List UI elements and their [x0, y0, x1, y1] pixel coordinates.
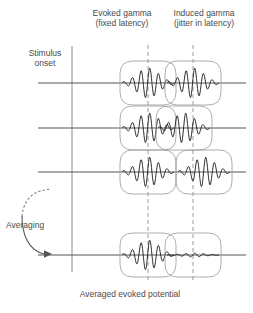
- diagram-canvas: [0, 0, 253, 313]
- trace-row-trial-2: [38, 106, 246, 150]
- averaging-arrow: [22, 189, 52, 258]
- trace-row-trial-3: [38, 150, 246, 194]
- evoked-induced-gamma-diagram: Evoked gamma (fixed latency) Induced gam…: [0, 0, 253, 313]
- trial-rows: [38, 61, 246, 277]
- guide-lines: [72, 45, 193, 282]
- trace-row-average: [38, 233, 246, 277]
- averaging-arrowhead: [44, 250, 52, 258]
- trace-row-trial-1: [38, 61, 246, 105]
